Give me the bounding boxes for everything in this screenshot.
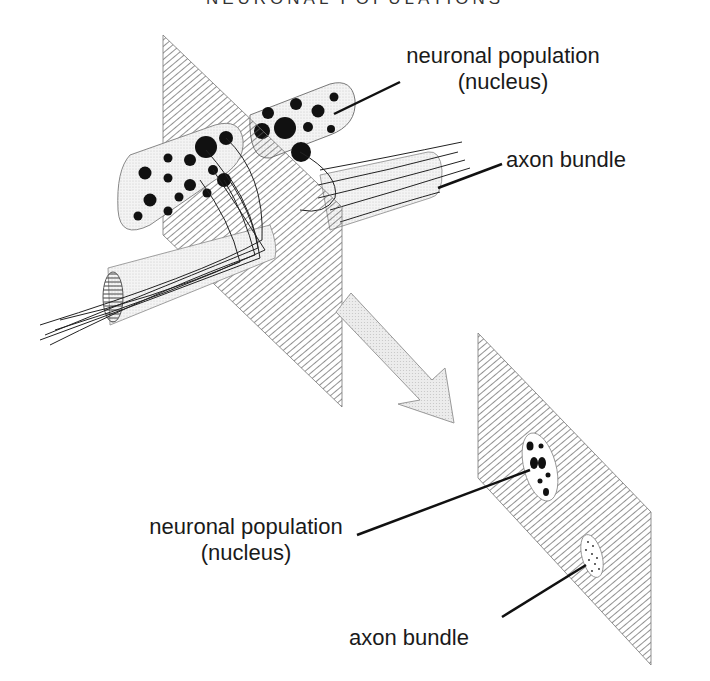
label-lower-nucleus-line2: (nucleus): [136, 540, 356, 566]
label-upper-axon: axon bundle: [506, 147, 626, 173]
label-lower-nucleus: neuronal population (nucleus): [136, 514, 356, 566]
leader-lower-axon: [502, 565, 586, 617]
section-arrow: [336, 293, 454, 423]
label-lower-nucleus-line1: neuronal population: [136, 514, 356, 540]
diagram: NEURONAL POPULATIONS: [0, 0, 710, 681]
label-upper-nucleus: neuronal population (nucleus): [403, 43, 603, 95]
leader-upper-axon: [438, 164, 502, 188]
label-lower-axon: axon bundle: [349, 625, 469, 651]
label-upper-nucleus-line1: neuronal population: [403, 43, 603, 69]
diagram-graphic: [0, 0, 710, 681]
label-upper-nucleus-line2: (nucleus): [403, 69, 603, 95]
